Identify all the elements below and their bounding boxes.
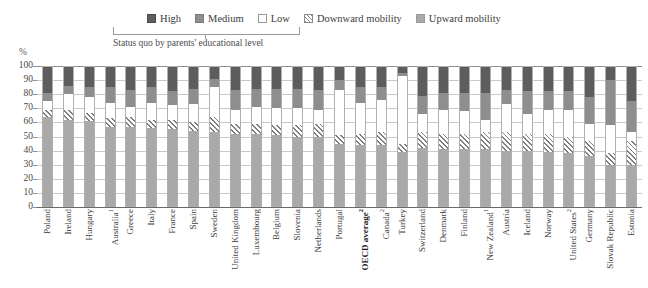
segment-upward-mobility xyxy=(42,117,53,207)
segment-upward-mobility xyxy=(188,131,199,207)
bar-column[interactable] xyxy=(313,66,324,207)
segment-low xyxy=(313,110,324,124)
segment-high xyxy=(271,66,282,89)
segment-upward-mobility xyxy=(522,151,533,207)
segment-upward-mobility xyxy=(417,148,428,207)
bar-column[interactable] xyxy=(84,66,95,207)
segment-high xyxy=(230,66,241,90)
bar-column[interactable] xyxy=(105,66,116,207)
segment-downward-mobility xyxy=(167,120,178,130)
segment-upward-mobility xyxy=(271,135,282,207)
bar-column[interactable] xyxy=(376,66,387,207)
bar-column[interactable] xyxy=(209,66,220,207)
bar-column[interactable] xyxy=(355,66,366,207)
segment-medium xyxy=(230,90,241,110)
bar-column[interactable] xyxy=(188,66,199,207)
segment-high xyxy=(105,66,116,87)
segment-low xyxy=(543,110,554,134)
x-axis-label: Finland xyxy=(459,209,470,237)
bar-column[interactable] xyxy=(397,66,408,207)
segment-high xyxy=(292,66,303,89)
y-tick-label-10: 10 xyxy=(24,188,34,198)
segment-low xyxy=(397,76,408,144)
segment-low xyxy=(230,110,241,124)
segment-upward-mobility xyxy=(438,149,449,207)
segment-medium xyxy=(543,91,554,109)
segment-downward-mobility xyxy=(42,110,53,117)
segment-medium xyxy=(376,87,387,100)
bar-column[interactable] xyxy=(459,66,470,207)
x-axis-label: OECD average2 xyxy=(355,209,366,271)
legend-label-medium: Medium xyxy=(208,13,244,24)
segment-low xyxy=(105,103,116,119)
segment-upward-mobility xyxy=(125,127,136,207)
segment-medium xyxy=(188,89,199,105)
x-axis-label: United Kingdom xyxy=(230,209,241,270)
bar-column[interactable] xyxy=(480,66,491,207)
segment-upward-mobility xyxy=(355,145,366,207)
x-axis-label: Slovak Republic xyxy=(605,209,616,269)
segment-downward-mobility xyxy=(334,135,345,143)
segment-upward-mobility xyxy=(313,137,324,208)
x-axis-label: Poland xyxy=(42,209,53,234)
segment-high xyxy=(209,66,220,79)
bar-column[interactable] xyxy=(292,66,303,207)
bar-column[interactable] xyxy=(605,66,616,207)
bar-column[interactable] xyxy=(501,66,512,207)
segment-high xyxy=(522,66,533,91)
segment-downward-mobility xyxy=(251,124,262,134)
legend-item-medium: Medium xyxy=(195,13,244,24)
bar-column[interactable] xyxy=(42,66,53,207)
x-axis-label: Slovenia xyxy=(292,209,303,241)
segment-downward-mobility xyxy=(313,124,324,137)
legend-bracket-note: Status quo by parents' educational level xyxy=(113,38,263,48)
segment-upward-mobility xyxy=(605,165,616,207)
segment-downward-mobility xyxy=(355,134,366,145)
x-axis-label: Estonia xyxy=(626,209,637,236)
y-tick-label-100: 100 xyxy=(19,61,33,71)
downward-mobility-swatch xyxy=(304,14,313,23)
bar-column[interactable] xyxy=(271,66,282,207)
segment-downward-mobility xyxy=(209,117,220,133)
bar-column[interactable] xyxy=(125,66,136,207)
bar-column[interactable] xyxy=(438,66,449,207)
legend-bracket xyxy=(113,27,300,35)
y-tick-label-0: 0 xyxy=(28,202,33,212)
segment-low xyxy=(271,108,282,125)
segment-downward-mobility xyxy=(480,132,491,149)
bar-column[interactable] xyxy=(563,66,574,207)
segment-medium xyxy=(355,87,366,103)
segment-high xyxy=(313,66,324,90)
bar-column[interactable] xyxy=(146,66,157,207)
segment-high xyxy=(543,66,554,91)
bar-column[interactable] xyxy=(167,66,178,207)
x-axis-label: Norway xyxy=(543,209,554,238)
bar-column[interactable] xyxy=(334,66,345,207)
x-axis-label: Switzerland xyxy=(417,209,428,252)
bar-column[interactable] xyxy=(230,66,241,207)
segment-high xyxy=(417,66,428,96)
legend-label-low: Low xyxy=(271,13,290,24)
bar-column[interactable] xyxy=(251,66,262,207)
x-axis-label: Turkey xyxy=(397,209,408,235)
y-tick-label-20: 20 xyxy=(24,174,34,184)
x-axis-label: Luxembourg xyxy=(251,209,262,255)
segment-upward-mobility xyxy=(626,165,637,207)
bar-column[interactable] xyxy=(543,66,554,207)
bar-column[interactable] xyxy=(522,66,533,207)
segment-medium xyxy=(313,90,324,110)
segment-medium xyxy=(584,97,595,124)
segment-upward-mobility xyxy=(84,121,95,207)
bar-column[interactable] xyxy=(63,66,74,207)
segment-upward-mobility xyxy=(501,151,512,207)
segment-medium xyxy=(334,80,345,90)
segment-upward-mobility xyxy=(230,134,241,207)
segment-downward-mobility xyxy=(543,134,554,152)
segment-high xyxy=(397,66,408,73)
segment-upward-mobility xyxy=(376,145,387,207)
bar-column[interactable] xyxy=(417,66,428,207)
segment-upward-mobility xyxy=(251,134,262,207)
bar-column[interactable] xyxy=(584,66,595,207)
segment-medium xyxy=(84,87,95,97)
bar-column[interactable] xyxy=(626,66,637,207)
